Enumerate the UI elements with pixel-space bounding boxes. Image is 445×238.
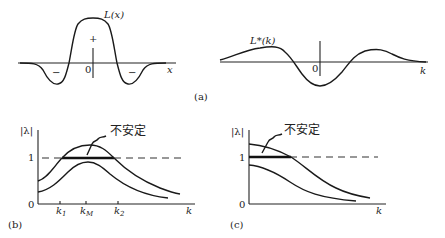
minus-sign-left: − — [52, 67, 60, 78]
y-tick-zero: 0 — [239, 199, 245, 210]
origin-label: 0 — [85, 64, 91, 75]
caption-b: (b) — [8, 219, 22, 230]
plus-sign: + — [89, 33, 97, 44]
minus-sign-right: − — [128, 67, 136, 78]
unstable-label: 不安定 — [110, 123, 146, 138]
l-star-k-curve — [220, 47, 426, 86]
kM-label: kM — [80, 205, 94, 218]
y-tick-one: 1 — [28, 152, 34, 163]
caption-a: (a) — [194, 91, 208, 102]
annotation-pointer — [262, 134, 282, 153]
upper-lambda-curve — [38, 145, 180, 194]
x-axis-label: x — [167, 64, 173, 75]
y-axis-label: |λ| — [20, 125, 33, 137]
y-tick-zero: 0 — [28, 199, 34, 210]
k-axis-label: k — [186, 205, 192, 216]
k2-label: k2 — [114, 205, 125, 218]
y-axis-label: |λ| — [231, 126, 244, 138]
origin-label: 0 — [312, 63, 318, 74]
y-tick-one: 1 — [239, 152, 245, 163]
stability-diagram: L(x) + − − 0 x (a) L*(k) 0 k 不安定 |λ| 1 0 — [0, 0, 445, 238]
panel-b: 不安定 |λ| 1 0 k1 kM k2 k (b) — [8, 123, 195, 230]
caption-c: (c) — [230, 219, 244, 230]
l-star-k-label: L*(k) — [249, 35, 276, 46]
k1-label: k1 — [56, 205, 67, 218]
panel-a-left: L(x) + − − 0 x — [18, 9, 176, 84]
k-axis-label: k — [376, 205, 382, 216]
lower-lambda-curve — [249, 165, 356, 201]
panel-a-right: L*(k) 0 k — [220, 35, 428, 86]
panel-c: 不安定 |λ| 1 0 k (c) — [230, 122, 386, 230]
l-x-label: L(x) — [103, 9, 124, 20]
k-axis-label: k — [420, 65, 426, 76]
lower-lambda-curve — [38, 162, 168, 198]
unstable-label: 不安定 — [284, 122, 320, 137]
upper-lambda-curve — [249, 144, 370, 198]
